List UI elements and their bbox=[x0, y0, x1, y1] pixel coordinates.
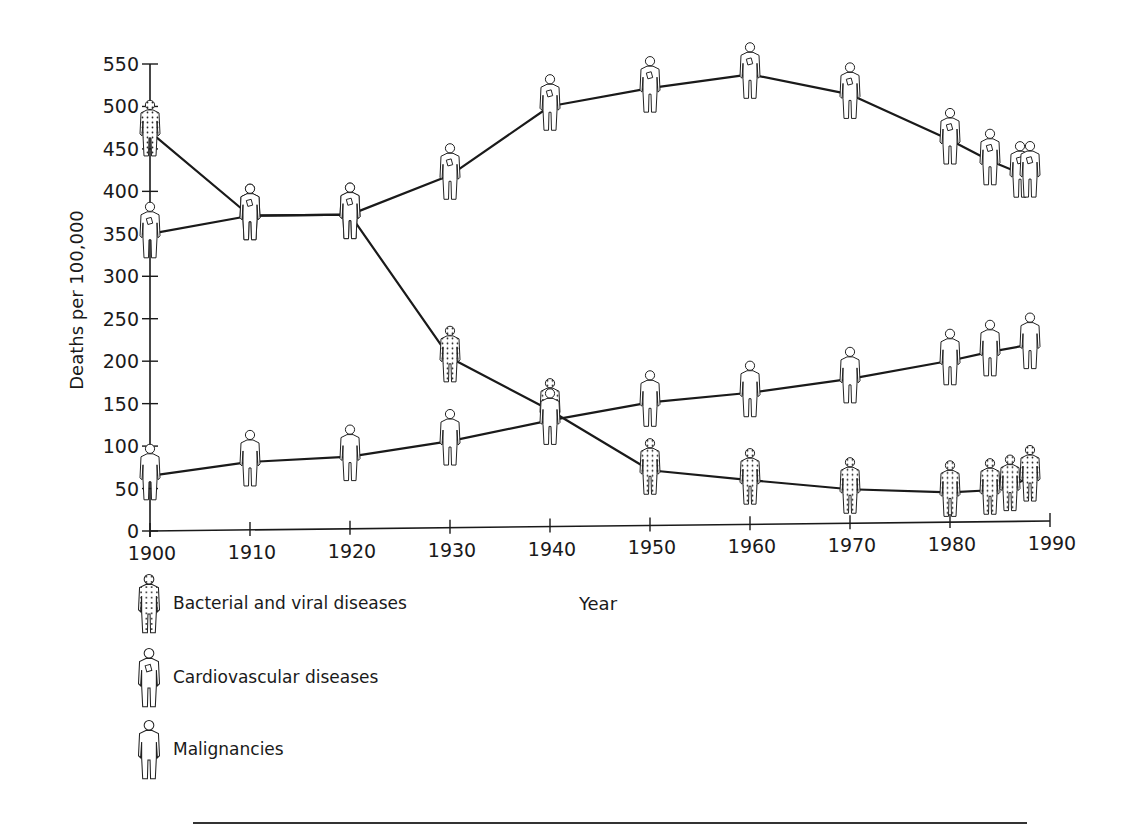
legend-item-bacterial: Bacterial and viral diseases bbox=[135, 570, 407, 636]
dotted-person-icon bbox=[980, 459, 1000, 515]
heart-person-icon bbox=[340, 183, 360, 239]
legend-label: Bacterial and viral diseases bbox=[173, 593, 407, 613]
series-line bbox=[150, 74, 1030, 234]
x-axis-title: Year bbox=[578, 593, 618, 614]
legend-label: Malignancies bbox=[173, 739, 284, 759]
x-tick-label: 1960 bbox=[728, 535, 776, 557]
plain-person-icon bbox=[840, 347, 860, 403]
series-lines bbox=[150, 74, 1030, 492]
x-tick-label: 1990 bbox=[1028, 532, 1076, 554]
plain-person-icon bbox=[740, 361, 760, 417]
heart-person-icon bbox=[980, 129, 1000, 185]
y-tick-label: 550 bbox=[103, 53, 139, 75]
axes: 0501001502002503003504004505005501900191… bbox=[103, 53, 1076, 564]
y-tick-label: 100 bbox=[103, 435, 139, 457]
series-line bbox=[150, 132, 1030, 492]
bottom-rule bbox=[193, 822, 1027, 824]
x-tick-label: 1920 bbox=[328, 540, 376, 562]
series-icons bbox=[140, 43, 1040, 517]
y-tick-label: 150 bbox=[103, 393, 139, 415]
x-tick-label: 1930 bbox=[428, 539, 476, 561]
y-tick-label: 450 bbox=[103, 138, 139, 160]
x-tick-label: 1910 bbox=[228, 541, 276, 563]
legend-label: Cardiovascular diseases bbox=[173, 667, 378, 687]
y-tick-label: 300 bbox=[103, 265, 139, 287]
dotted-person-icon bbox=[840, 458, 860, 514]
plain-person-icon bbox=[135, 716, 163, 782]
heart-person-icon bbox=[640, 57, 660, 113]
y-tick-label: 500 bbox=[103, 95, 139, 117]
x-tick-label: 1950 bbox=[628, 536, 676, 558]
plain-person-icon bbox=[1020, 313, 1040, 369]
y-tick-label: 50 bbox=[115, 478, 139, 500]
plain-person-icon bbox=[940, 329, 960, 385]
y-axis-title: Deaths per 100,000 bbox=[66, 210, 87, 390]
y-tick-label: 0 bbox=[127, 520, 139, 542]
dotted-person-icon bbox=[440, 326, 460, 382]
x-tick-label: 1980 bbox=[928, 533, 976, 555]
dotted-person-icon bbox=[1020, 445, 1040, 501]
plain-person-icon bbox=[980, 320, 1000, 376]
heart-person-icon bbox=[840, 63, 860, 119]
y-tick-label: 400 bbox=[103, 180, 139, 202]
y-tick-label: 350 bbox=[103, 223, 139, 245]
heart-person-icon bbox=[135, 644, 163, 710]
dotted-person-icon bbox=[740, 449, 760, 505]
dotted-person-icon bbox=[1000, 455, 1020, 511]
heart-person-icon bbox=[940, 108, 960, 164]
dotted-person-icon bbox=[139, 574, 160, 632]
heart-person-icon bbox=[240, 184, 260, 240]
y-tick-label: 250 bbox=[103, 308, 139, 330]
dotted-person-icon bbox=[940, 461, 960, 517]
dotted-person-icon bbox=[135, 570, 163, 636]
y-tick-label: 200 bbox=[103, 350, 139, 372]
series-line bbox=[150, 345, 1030, 476]
heart-person-icon bbox=[440, 144, 460, 200]
plain-person-icon bbox=[139, 720, 160, 778]
legend-item-malignancies: Malignancies bbox=[135, 716, 284, 782]
heart-person-icon bbox=[139, 648, 160, 706]
x-tick-label: 1900 bbox=[128, 542, 176, 564]
heart-person-icon bbox=[540, 75, 560, 131]
plain-person-icon bbox=[240, 430, 260, 486]
legend-item-cardiovascular: Cardiovascular diseases bbox=[135, 644, 378, 710]
plain-person-icon bbox=[340, 425, 360, 481]
dotted-person-icon bbox=[640, 439, 660, 495]
plain-person-icon bbox=[440, 409, 460, 465]
x-tick-label: 1940 bbox=[528, 538, 576, 560]
x-tick-label: 1970 bbox=[828, 534, 876, 556]
plain-person-icon bbox=[640, 371, 660, 427]
heart-person-icon bbox=[740, 43, 760, 99]
